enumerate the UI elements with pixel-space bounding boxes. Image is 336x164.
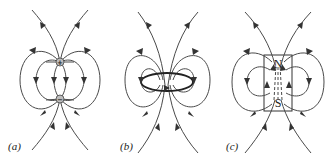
arrow-down-icon [63, 77, 69, 84]
panel-b: (b) [120, 12, 210, 153]
field-line [32, 99, 60, 150]
arrow-right-icon [300, 111, 306, 117]
field-line [281, 100, 311, 153]
field-line [286, 67, 309, 96]
arrow-up-icon [286, 81, 292, 88]
field-line [232, 53, 272, 111]
field-line [60, 10, 88, 62]
negative-charge-symbol: − [57, 96, 63, 104]
field-line [168, 85, 198, 153]
arrow-up-icon [65, 122, 70, 130]
field-line [245, 12, 275, 65]
field-line [245, 100, 275, 153]
field-lines-figure: + − (a) (b) [0, 0, 336, 164]
panel-a: + − (a) [8, 10, 100, 153]
panel-label-b: (b) [120, 140, 133, 153]
arrow-down-icon [51, 77, 57, 84]
arrow-down-icon [306, 78, 312, 85]
arrow-down-icon [244, 78, 250, 85]
field-line [125, 56, 163, 107]
arrow-up-icon [264, 81, 270, 88]
arrow-down-icon [33, 77, 39, 84]
panel-label-c: (c) [226, 140, 239, 153]
field-line [32, 10, 60, 62]
field-line [281, 12, 311, 65]
field-line [170, 56, 210, 107]
arrow-right-icon [74, 110, 80, 116]
arrow-right-icon [250, 111, 256, 117]
positive-charge-symbol: + [57, 59, 63, 67]
arrow-right-icon [40, 110, 46, 116]
field-line [284, 53, 324, 111]
arrow-down-icon [138, 77, 144, 84]
panel-c: N S (c) [226, 12, 324, 153]
arrow-up-icon [50, 122, 55, 130]
arrow-right-icon [192, 48, 199, 55]
field-line [138, 85, 165, 153]
south-pole-label: S [275, 96, 282, 110]
field-line [60, 99, 88, 150]
field-line [247, 67, 270, 96]
arrow-right-icon [188, 111, 194, 117]
arrow-left-icon [136, 48, 143, 55]
arrow-up-icon [184, 22, 190, 29]
panel-label-a: (a) [8, 140, 21, 153]
arrow-right-icon [142, 111, 148, 117]
arrow-down-icon [81, 77, 87, 84]
